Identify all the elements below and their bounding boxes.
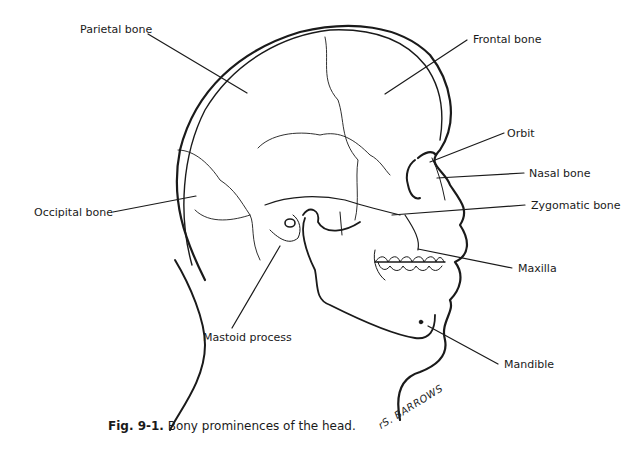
squamosal-suture xyxy=(258,133,390,175)
occipital-suture xyxy=(195,210,250,220)
label-frontal-bone: Frontal bone xyxy=(473,33,542,46)
label-zygomatic-bone: Zygomatic bone xyxy=(531,199,621,212)
skull-vault-inner xyxy=(184,30,442,265)
teeth xyxy=(374,250,445,280)
label-nasal-bone: Nasal bone xyxy=(529,167,590,180)
ear-canal xyxy=(285,219,295,227)
skull-illustration xyxy=(0,0,639,463)
leader-lines xyxy=(113,34,525,364)
mandible-condyle xyxy=(303,210,360,231)
orbit-rim xyxy=(418,152,436,158)
label-mandible: Mandible xyxy=(504,358,554,371)
coronal-suture xyxy=(325,37,358,220)
label-maxilla: Maxilla xyxy=(518,262,557,275)
cheek-outline xyxy=(405,215,418,250)
head-outline xyxy=(177,26,467,420)
mandible-outline xyxy=(303,218,435,338)
label-occipital-bone: Occipital bone xyxy=(34,206,113,219)
mastoid-outline xyxy=(270,215,300,241)
mental-foramen xyxy=(419,320,423,324)
skull-diagram: Parietal bone Frontal bone Orbit Nasal b… xyxy=(0,0,639,463)
label-mastoid-process: Mastoid process xyxy=(203,331,292,344)
figure-caption: Fig. 9-1. Bony prominences of the head. xyxy=(108,419,356,433)
caption-number: Fig. 9-1. xyxy=(108,419,164,433)
nasal-outline xyxy=(432,158,445,200)
orbit-outline xyxy=(407,160,420,198)
zygomatic-arch xyxy=(265,197,400,215)
lambdoid-suture xyxy=(178,150,260,260)
ramus-notch xyxy=(340,212,342,235)
label-parietal-bone: Parietal bone xyxy=(80,23,152,36)
caption-text: Bony prominences of the head. xyxy=(164,419,356,433)
neck-back-outline xyxy=(170,260,205,430)
label-orbit: Orbit xyxy=(507,127,535,140)
